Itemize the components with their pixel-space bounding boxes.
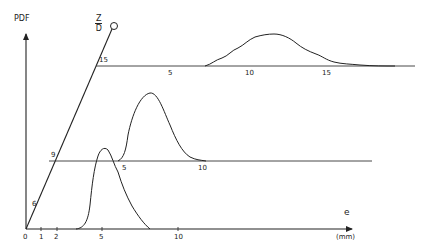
e-axis-unit: (mm)	[336, 233, 355, 241]
curve-z15	[205, 34, 395, 66]
zd-label-denominator: D	[95, 24, 102, 33]
tick-5: 5	[99, 233, 103, 241]
z15-tick-5: 5	[168, 69, 172, 77]
layer-label-z9: 9	[51, 151, 55, 159]
tick-10: 10	[174, 233, 183, 241]
curve-z9	[118, 93, 206, 161]
tick-2: 2	[54, 233, 58, 241]
e-axis-label: e	[344, 207, 350, 217]
zd-label-numerator: Z	[95, 14, 102, 24]
z9-tick-5: 5	[122, 164, 126, 172]
layer-label-z6: 6	[32, 200, 36, 208]
z9-tick-10: 10	[198, 164, 207, 172]
curve-z6	[76, 148, 150, 229]
tick-1: 1	[39, 233, 43, 241]
z15-tick-10: 10	[245, 69, 254, 77]
tick-0: 0	[23, 233, 27, 241]
zd-axis-label: Z D	[95, 14, 102, 33]
z15-tick-15: 15	[322, 69, 331, 77]
zd-axis-end-circle	[111, 23, 118, 30]
layer-label-z15: 15	[99, 56, 108, 64]
pdf-3d-diagram	[0, 0, 432, 244]
pdf-axis-label: PDF	[14, 14, 30, 23]
